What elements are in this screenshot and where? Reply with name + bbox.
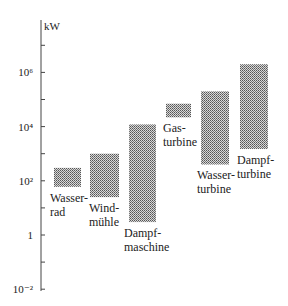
y-tick-label: 10⁴ [18, 121, 33, 133]
bar-windmühle [90, 154, 119, 197]
bar-label: maschine [124, 240, 169, 254]
bar-label: Wasser- [50, 191, 88, 205]
bar-label: Dampf- [124, 226, 161, 240]
bar-label: Dampf- [237, 153, 274, 167]
power-range-chart: kW 10⁶10⁴10²110⁻² Wasser-radWind-mühleDa… [0, 0, 288, 306]
y-tick-label: 10⁻² [13, 283, 34, 295]
bar-dampfmaschine [129, 124, 156, 222]
bar-label: Gas- [163, 121, 186, 135]
bar-label: turbine [197, 182, 231, 196]
bar-wasserrad [54, 168, 81, 187]
y-axis-unit-label: kW [44, 20, 61, 32]
y-tick-label: 1 [28, 229, 34, 241]
y-tick-label: 10⁶ [18, 66, 33, 78]
bar-label: rad [50, 205, 65, 219]
bar-gasturbine [166, 104, 191, 118]
bar-wasserturbine [201, 91, 229, 164]
bar-label: Wind- [89, 201, 119, 215]
bar-label: turbine [237, 167, 271, 181]
bar-label: turbine [163, 135, 197, 149]
bar-dampfturbine [240, 64, 268, 149]
bar-label: Wasser- [197, 168, 235, 182]
y-tick-label: 10² [19, 175, 34, 187]
y-axis-ticks: 10⁶10⁴10²110⁻² [13, 45, 45, 295]
bar-label: mühle [89, 215, 119, 229]
